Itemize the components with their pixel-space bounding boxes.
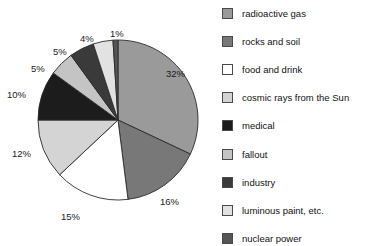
legend-item[interactable]: medical xyxy=(222,119,275,133)
slice-label-rocks-and-soil: 16% xyxy=(160,196,179,207)
legend-item-label: cosmic rays from the Sun xyxy=(242,92,349,103)
slice-label-cosmic-rays: 12% xyxy=(12,148,31,159)
legend-swatch-icon xyxy=(222,233,233,244)
legend-swatch-icon xyxy=(222,177,233,188)
legend-item[interactable]: fallout xyxy=(222,147,267,161)
legend-item[interactable]: rocks and soil xyxy=(222,34,300,48)
legend-item-label: nuclear power xyxy=(242,233,302,244)
legend-swatch-icon xyxy=(222,64,233,75)
slice-label-luminous-paint: 4% xyxy=(80,33,94,44)
pie-slice-group xyxy=(38,40,198,200)
legend-item-label: industry xyxy=(242,177,275,188)
slice-label-nuclear-power: 1% xyxy=(110,28,124,39)
legend-swatch-icon xyxy=(222,92,233,103)
slice-label-fallout: 5% xyxy=(31,63,45,74)
slice-label-food-and-drink: 15% xyxy=(61,211,80,222)
legend-item-label: radioactive gas xyxy=(242,8,306,19)
legend-item[interactable]: luminous paint, etc. xyxy=(222,203,324,217)
pie-svg xyxy=(0,0,215,243)
legend-swatch-icon xyxy=(222,205,233,216)
legend-swatch-icon xyxy=(222,120,233,131)
slice-label-industry: 5% xyxy=(53,46,67,57)
legend-swatch-icon xyxy=(222,8,233,19)
slice-label-radioactive-gas: 32% xyxy=(166,68,185,79)
legend-item[interactable]: nuclear power xyxy=(222,232,302,246)
legend-item-label: rocks and soil xyxy=(242,36,300,47)
legend-item-label: luminous paint, etc. xyxy=(242,205,324,216)
legend-item[interactable]: industry xyxy=(222,175,275,189)
pie-plot-area: 32% 16% 15% 12% 10% 5% 5% 4% 1% xyxy=(0,0,215,243)
legend-item[interactable]: cosmic rays from the Sun xyxy=(222,91,349,105)
legend-item-label: medical xyxy=(242,120,275,131)
slice-label-medical: 10% xyxy=(7,89,26,100)
legend-item-label: food and drink xyxy=(242,64,302,75)
legend-item[interactable]: radioactive gas xyxy=(222,6,306,20)
legend-swatch-icon xyxy=(222,149,233,160)
legend-item-label: fallout xyxy=(242,149,267,160)
legend-swatch-icon xyxy=(222,36,233,47)
legend-item[interactable]: food and drink xyxy=(222,62,302,76)
legend: radioactive gasrocks and soilfood and dr… xyxy=(222,6,374,238)
